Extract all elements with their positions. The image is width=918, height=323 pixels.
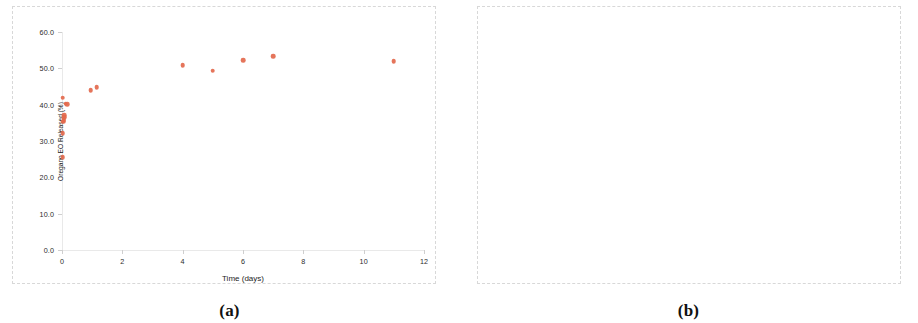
y-tick-label: 0.0 xyxy=(44,246,54,255)
x-tick-label: 8 xyxy=(301,257,305,266)
x-tick-label: 4 xyxy=(181,257,185,266)
panel-b-caption: (b) xyxy=(459,301,918,321)
data-point-marker xyxy=(63,101,68,106)
x-tick-label: 0 xyxy=(60,257,64,266)
panel-a-caption: (a) xyxy=(0,301,459,321)
x-tick-label: 6 xyxy=(241,257,245,266)
x-tick-label: 2 xyxy=(120,257,124,266)
x-tick-mark xyxy=(243,250,244,254)
y-axis-title: Oregano EO Released (%) xyxy=(56,102,63,181)
x-axis-title: Time (days) xyxy=(222,274,264,283)
y-tick-label: 20.0 xyxy=(40,173,54,182)
data-point-marker xyxy=(88,88,93,93)
panel-a: 0.010.020.030.040.050.060.0024681012Time… xyxy=(0,0,459,323)
x-tick-mark xyxy=(303,250,304,254)
x-tick-mark xyxy=(364,250,365,254)
x-tick-mark xyxy=(122,250,123,254)
x-tick-mark xyxy=(183,250,184,254)
panel-a-plot-area: 0.010.020.030.040.050.060.0024681012Time… xyxy=(62,32,424,250)
y-tick-label: 30.0 xyxy=(40,137,54,146)
data-point-marker xyxy=(392,59,397,64)
x-tick-mark xyxy=(62,250,63,254)
data-point-marker xyxy=(94,85,99,90)
data-point-marker xyxy=(180,63,185,68)
data-point-marker xyxy=(65,102,70,107)
y-tick-label: 60.0 xyxy=(40,28,54,37)
data-point-marker xyxy=(271,54,276,59)
y-tick-label: 40.0 xyxy=(40,100,54,109)
data-point-marker xyxy=(211,68,216,73)
y-tick-label: 50.0 xyxy=(40,64,54,73)
panel-b: 0.010.020.030.040.050.00.00.51.01.52.0Ti… xyxy=(459,0,918,323)
y-tick-mark xyxy=(58,68,62,69)
x-tick-label: 10 xyxy=(360,257,368,266)
figure-two-panel-scatter: 0.010.020.030.040.050.060.0024681012Time… xyxy=(0,0,918,323)
y-tick-mark xyxy=(58,214,62,215)
y-tick-label: 10.0 xyxy=(40,209,54,218)
data-point-marker xyxy=(241,58,246,63)
x-tick-mark xyxy=(424,250,425,254)
x-tick-label: 12 xyxy=(420,257,428,266)
panel-b-frame xyxy=(477,6,901,284)
y-tick-mark xyxy=(58,32,62,33)
